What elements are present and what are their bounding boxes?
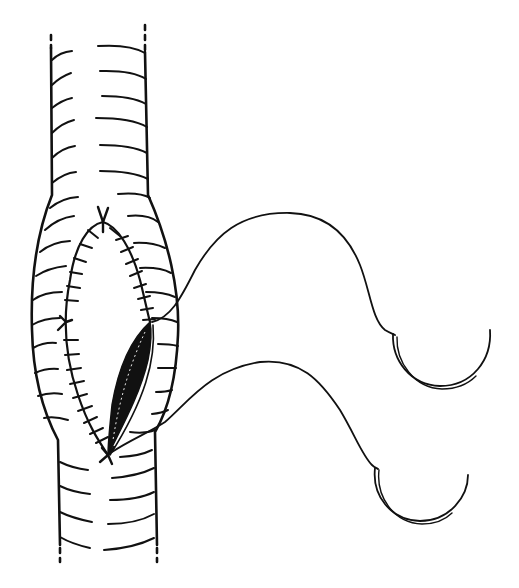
lower-thread [112,362,378,469]
vessel-rings-left [32,51,92,548]
surgical-illustration: Line illustration of a longitudinal inci… [0,0,519,588]
upper-thread [152,213,395,335]
upper-needle [393,330,490,389]
lower-needle [375,468,468,524]
vessel-rings-right [96,46,178,550]
illustration-canvas [0,0,519,588]
suture-stitches-right [110,228,155,320]
open-gap [108,322,153,455]
suture-stitches-left [64,230,108,443]
